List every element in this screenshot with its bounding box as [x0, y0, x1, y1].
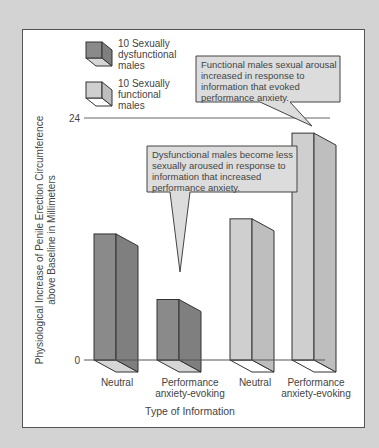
legend-swatch-functional-front: [86, 82, 102, 98]
bar-functional-neutral-side-face: [252, 219, 274, 372]
legend-label-functional: 10 Sexually: [118, 78, 170, 89]
x-tick-label-3: Neutral: [239, 377, 271, 388]
x-tick-label-2: anxiety-evoking: [155, 388, 224, 399]
y-tick-label-24: 24: [69, 113, 81, 124]
bar-functional-neutral-front-face: [230, 219, 252, 360]
callout-functional-text: information that evoked: [201, 81, 300, 92]
legend-swatch-dysfunctional-front: [86, 42, 102, 58]
callout-dysfunctional-text: Dysfunctional males become less: [152, 149, 293, 160]
x-axis-label: Type of Information: [145, 405, 235, 417]
bar-dysfunctional-neutral-front-face: [94, 234, 116, 360]
x-tick-label-4: Performance: [287, 377, 345, 388]
legend-label-dysfunctional: males: [118, 60, 145, 71]
callout-functional-text: increased in response to: [201, 70, 305, 81]
y-axis-label-line-1: Physiological Increase of Penile Erectio…: [34, 115, 45, 364]
x-tick-label-1: Neutral: [101, 377, 133, 388]
bar-dysfunctional-performance-side-face: [179, 300, 201, 373]
legend-label-dysfunctional: 10 Sexually: [118, 38, 170, 49]
callout-functional-text: performance anxiety.: [201, 92, 289, 103]
x-tick-label-2: Performance: [161, 377, 219, 388]
y-axis-label-line-2: above Baseline in Millimeters: [46, 175, 57, 305]
callout-dysfunctional-text: performance anxiety.: [152, 182, 240, 193]
legend-label-functional: functional: [118, 89, 161, 100]
bar-dysfunctional-neutral-side-face: [116, 234, 138, 372]
x-tick-label-4: anxiety-evoking: [281, 388, 350, 399]
bar-chart: 240Physiological Increase of Penile Erec…: [0, 0, 379, 448]
legend-label-functional: males: [118, 100, 145, 111]
callout-dysfunctional-text: sexually aroused in response to: [152, 160, 286, 171]
callout-functional-text: Functional males sexual arousal: [201, 59, 337, 70]
bar-functional-performance-side-face: [314, 133, 336, 372]
callout-dysfunctional-text: information that increased: [152, 171, 261, 182]
bar-dysfunctional-performance-front-face: [157, 300, 179, 361]
legend-label-dysfunctional: dysfunctional: [118, 49, 176, 60]
y-tick-label-0: 0: [74, 355, 80, 366]
